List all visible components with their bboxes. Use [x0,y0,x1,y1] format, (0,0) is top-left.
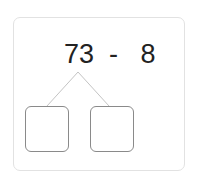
answer-box-left[interactable] [25,106,69,152]
split-branch-lines [0,0,197,180]
answer-box-right[interactable] [90,106,134,152]
